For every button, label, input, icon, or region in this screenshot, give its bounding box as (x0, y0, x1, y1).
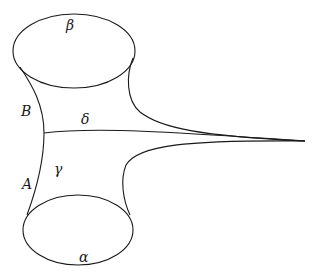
diagram-canvas: β B δ γ A α (0, 0, 318, 276)
bottom-boundary-ellipse (23, 195, 133, 265)
label-alpha: α (79, 249, 89, 265)
surface-diagram: β B δ γ A α (0, 0, 318, 276)
left-side-segment-a (27, 133, 44, 215)
label-gamma: γ (54, 161, 63, 177)
lower-right-boundary-to-cusp (123, 141, 305, 215)
upper-right-boundary-to-cusp (128, 58, 305, 141)
left-side-segment-b (20, 67, 44, 133)
label-beta: β (65, 17, 74, 33)
label-delta: δ (81, 111, 89, 127)
label-b: B (20, 103, 31, 119)
delta-arc (44, 130, 305, 141)
label-a: A (20, 176, 32, 192)
